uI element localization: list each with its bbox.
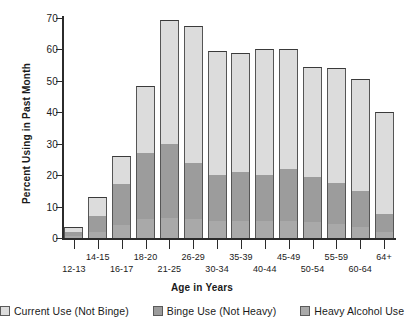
x-axis-tick-label: 14-15 — [76, 252, 120, 262]
legend-swatch-heavy-use — [300, 306, 310, 316]
bar-segment — [351, 79, 370, 191]
bar-segment — [136, 86, 155, 154]
bar-segment — [279, 221, 298, 238]
bar-segment — [136, 153, 155, 219]
legend-label: Binge Use (Not Heavy) — [167, 305, 276, 317]
chart-legend: Current Use (Not Binge)Binge Use (Not He… — [0, 305, 404, 317]
bar-18-20 — [136, 86, 155, 238]
bar-segment — [88, 232, 107, 238]
legend-label: Current Use (Not Binge) — [14, 305, 129, 317]
x-axis-tick-label: 30-34 — [195, 264, 239, 274]
x-axis-tick-label: 40-44 — [243, 264, 287, 274]
bar-segment — [208, 175, 227, 221]
bar-segment — [279, 49, 298, 168]
bar-segment — [255, 221, 274, 238]
x-axis-tick-mark — [169, 240, 170, 249]
x-axis-tick-label: 16-17 — [100, 264, 144, 274]
bar-segment — [327, 183, 346, 224]
bar-segment — [303, 177, 322, 223]
y-axis-tick-label: 70 — [30, 13, 58, 24]
bar-50-54 — [303, 67, 322, 238]
bar-segment — [64, 236, 83, 239]
bar-40-44 — [255, 49, 274, 238]
x-axis-tick-label: 45-49 — [267, 252, 311, 262]
bar-segment — [184, 219, 203, 238]
x-axis-tick-label: 21-25 — [147, 264, 191, 274]
y-axis-tick-label: 20 — [30, 170, 58, 181]
x-axis-tick-label: 12-13 — [52, 264, 96, 274]
bar-segment — [208, 51, 227, 175]
x-axis-tick-mark — [336, 240, 337, 249]
bar-45-49 — [279, 49, 298, 238]
x-axis-tick-mark — [360, 240, 361, 249]
x-axis-tick-mark — [384, 240, 385, 249]
x-axis-tick-mark — [217, 240, 218, 249]
y-axis-tick-label: 60 — [30, 44, 58, 55]
bar-21-25 — [160, 20, 179, 238]
x-axis-tick-mark — [193, 240, 194, 249]
bar-segment — [375, 232, 394, 238]
legend-label: Heavy Alcohol Use — [314, 305, 404, 317]
x-axis-tick-mark — [265, 240, 266, 249]
bar-segment — [112, 184, 131, 226]
bar-segment — [231, 53, 250, 172]
y-axis-tick-label: 0 — [30, 233, 58, 244]
y-axis-tick-mark — [56, 238, 62, 239]
x-axis-tick-mark — [241, 240, 242, 249]
bar-segment — [255, 49, 274, 175]
x-axis-tick-label: 64+ — [362, 252, 406, 262]
bar-segment — [184, 163, 203, 220]
bar-64plus — [375, 112, 394, 238]
legend-item: Current Use (Not Binge) — [0, 305, 129, 317]
bar-segment — [184, 26, 203, 163]
bar-segment — [112, 156, 131, 183]
x-axis-tick-label: 18-20 — [124, 252, 168, 262]
x-axis-tick-mark — [146, 240, 147, 249]
bar-segment — [231, 172, 250, 221]
y-axis-tick-label: 10 — [30, 201, 58, 212]
y-axis-tick-label: 50 — [30, 75, 58, 86]
bar-segment — [88, 197, 107, 216]
x-axis-tick-mark — [74, 240, 75, 249]
legend-item: Binge Use (Not Heavy) — [153, 305, 276, 317]
bar-segment — [375, 214, 394, 231]
x-axis-title: Age in Years — [0, 282, 404, 293]
bar-30-34 — [208, 51, 227, 238]
x-axis-tick-label: 35-39 — [219, 252, 263, 262]
y-axis-title: Percent Using in Past Month — [21, 44, 32, 224]
bar-26-29 — [184, 26, 203, 238]
bar-segment — [327, 224, 346, 238]
bar-35-39 — [231, 53, 250, 238]
bar-segment — [255, 175, 274, 221]
bar-segment — [136, 219, 155, 238]
bar-segment — [88, 216, 107, 232]
bar-16-17 — [112, 156, 131, 238]
legend-item: Heavy Alcohol Use — [300, 305, 404, 317]
bar-segment — [303, 67, 322, 177]
y-axis-tick-label: 40 — [30, 107, 58, 118]
x-axis-tick-label: 55-59 — [314, 252, 358, 262]
y-axis-tick-label: 30 — [30, 138, 58, 149]
bar-segment — [327, 68, 346, 183]
plot-area — [62, 18, 396, 238]
bar-12-13 — [64, 227, 83, 238]
bar-55-59 — [327, 68, 346, 238]
bar-segment — [160, 218, 179, 238]
legend-swatch-binge-use — [153, 306, 163, 316]
bar-segment — [303, 222, 322, 238]
bar-segment — [231, 221, 250, 238]
x-axis-tick-label: 60-64 — [338, 264, 382, 274]
x-axis-tick-mark — [122, 240, 123, 249]
legend-swatch-current-use — [0, 306, 10, 316]
bar-60-64 — [351, 79, 370, 238]
x-axis-tick-label: 50-54 — [291, 264, 335, 274]
x-axis-tick-mark — [313, 240, 314, 249]
bar-segment — [160, 144, 179, 218]
bar-segment — [208, 221, 227, 238]
bar-segment — [375, 112, 394, 214]
bar-segment — [112, 225, 131, 238]
x-axis-tick-mark — [98, 240, 99, 249]
bar-segment — [351, 227, 370, 238]
x-axis-tick-mark — [289, 240, 290, 249]
